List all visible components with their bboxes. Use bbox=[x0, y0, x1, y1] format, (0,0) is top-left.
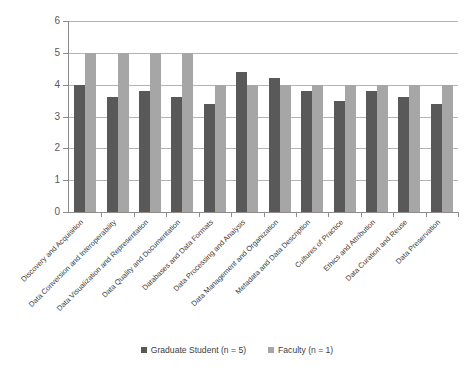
bar-group bbox=[296, 21, 328, 212]
y-axis-tick bbox=[63, 21, 69, 22]
bar bbox=[182, 53, 193, 212]
bar bbox=[139, 91, 150, 212]
y-axis-tick bbox=[63, 212, 69, 213]
x-axis-tick bbox=[393, 212, 394, 217]
bar bbox=[269, 78, 280, 212]
x-axis-tick bbox=[458, 212, 459, 217]
bar bbox=[247, 85, 258, 212]
bar bbox=[409, 85, 420, 212]
bar bbox=[312, 85, 323, 212]
bar-group bbox=[69, 21, 101, 212]
x-axis-tick bbox=[231, 212, 232, 217]
bar bbox=[431, 104, 442, 212]
x-axis-tick bbox=[199, 212, 200, 217]
y-axis-tick-label: 2 bbox=[34, 143, 60, 153]
bar bbox=[204, 104, 215, 212]
bar bbox=[301, 91, 312, 212]
bar-group bbox=[426, 21, 458, 212]
x-axis-tick bbox=[361, 212, 362, 217]
bar bbox=[236, 72, 247, 212]
y-axis-tick-label: 1 bbox=[34, 175, 60, 185]
bar-chart: 0123456 Discovery and AcquisitionData Co… bbox=[0, 0, 474, 377]
y-axis-tick bbox=[63, 180, 69, 181]
bar-group bbox=[361, 21, 393, 212]
x-axis-tick bbox=[101, 212, 102, 217]
bar bbox=[334, 101, 345, 212]
legend-label: Faculty (n = 1) bbox=[278, 345, 333, 355]
bar-group bbox=[134, 21, 166, 212]
bar bbox=[85, 53, 96, 212]
legend-swatch-icon bbox=[268, 347, 274, 353]
x-axis-tick bbox=[328, 212, 329, 217]
legend-item[interactable]: Faculty (n = 1) bbox=[268, 345, 333, 355]
y-axis-tick bbox=[63, 53, 69, 54]
chart-legend: Graduate Student (n = 5)Faculty (n = 1) bbox=[0, 341, 474, 359]
bar bbox=[442, 85, 453, 212]
bar bbox=[280, 85, 291, 212]
bar bbox=[74, 85, 85, 212]
y-axis-tick-label: 3 bbox=[34, 112, 60, 122]
y-axis-tick-label: 6 bbox=[34, 16, 60, 26]
legend-item[interactable]: Graduate Student (n = 5) bbox=[141, 345, 246, 355]
y-axis-tick bbox=[63, 148, 69, 149]
x-axis-tick bbox=[264, 212, 265, 217]
x-axis-tick bbox=[426, 212, 427, 217]
bar-group bbox=[199, 21, 231, 212]
bar bbox=[171, 97, 182, 212]
bar-group bbox=[264, 21, 296, 212]
x-axis-tick bbox=[296, 212, 297, 217]
bar bbox=[366, 91, 377, 212]
legend-label: Graduate Student (n = 5) bbox=[151, 345, 246, 355]
x-axis-tick bbox=[134, 212, 135, 217]
y-axis-labels: 0123456 bbox=[30, 0, 60, 230]
bar bbox=[345, 85, 356, 212]
bar bbox=[118, 53, 129, 212]
plot-area bbox=[69, 21, 458, 212]
bar bbox=[107, 97, 118, 212]
bar bbox=[215, 85, 226, 212]
bar-group bbox=[101, 21, 133, 212]
bar-group bbox=[231, 21, 263, 212]
bar-group bbox=[328, 21, 360, 212]
bar bbox=[150, 53, 161, 212]
y-axis-tick bbox=[63, 117, 69, 118]
x-axis-tick bbox=[166, 212, 167, 217]
bar-group bbox=[393, 21, 425, 212]
legend-swatch-icon bbox=[141, 347, 147, 353]
bar-group bbox=[166, 21, 198, 212]
x-axis-category-labels: Discovery and AcquisitionData Conversion… bbox=[0, 216, 474, 336]
y-axis-tick bbox=[63, 85, 69, 86]
bar bbox=[377, 85, 388, 212]
y-axis-tick-label: 4 bbox=[34, 80, 60, 90]
bar bbox=[398, 97, 409, 212]
y-axis-tick-label: 5 bbox=[34, 48, 60, 58]
